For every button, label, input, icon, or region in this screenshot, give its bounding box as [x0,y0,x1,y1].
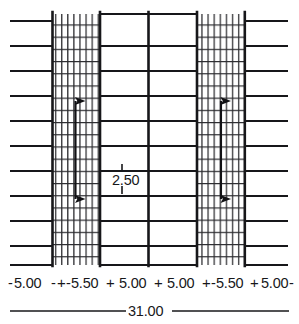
left-margin-ribs [10,21,53,265]
overall-dimension-label: 31.00 [128,303,163,319]
dimension-chain-row: - 5.00 - + - 5.50 + 5.00 + 5.00 + - 5.50… [8,274,294,291]
chain-dash: - [51,275,56,291]
chain-value-3: 5.00 [119,275,147,291]
chain-value-6: 5.00 [261,275,289,291]
interior-dimension-label: 2.50 [112,172,140,188]
chain-tick-1: + [57,274,66,291]
chain-value-1: 5.00 [14,275,42,291]
drawing-sheet: 2.50 - 5.00 - + - 5.50 + 5.00 + 5.00 + -… [0,0,299,324]
chain-value-4: 5.00 [167,275,195,291]
overall-dimension-31-00: 31.00 [10,303,289,319]
chain-tick-5: + [250,274,259,291]
technical-drawing-canvas: 2.50 - 5.00 - + - 5.50 + 5.00 + 5.00 + -… [0,0,299,324]
chain-tick-3: + [154,274,163,291]
chain-tick-4: + [202,274,211,291]
right-margin-ribs [244,21,288,265]
interior-dimension-2-50: 2.50 [112,164,140,194]
chain-tick-2: + [106,274,115,291]
chain-end-dash-left: - [8,275,13,291]
chain-value-5: 5.50 [216,275,244,291]
chain-value-2: 5.50 [71,275,99,291]
chain-end-dash-right: - [289,275,294,291]
